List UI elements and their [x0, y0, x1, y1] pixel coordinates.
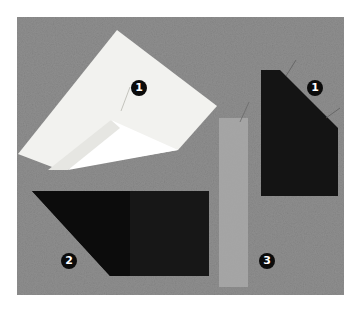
- callout-badge-1b: 1: [307, 80, 323, 96]
- callout-label: 1: [131, 80, 147, 96]
- callout-label: 2: [61, 253, 77, 269]
- callout-badge-2: 2: [61, 253, 77, 269]
- callout-badge-1a: 1: [131, 80, 147, 96]
- callout-badge-3: 3: [259, 253, 275, 269]
- translucent-strip-sample: [219, 118, 248, 287]
- callout-label: 1: [307, 80, 323, 96]
- callout-label: 3: [259, 253, 275, 269]
